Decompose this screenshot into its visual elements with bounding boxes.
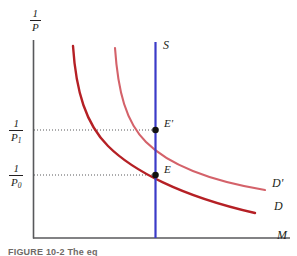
y-axis-label: 1 P (30, 8, 41, 33)
y-tick-p1-subscript: 1 (18, 136, 22, 145)
figure-money-market: 1 P 1 P1 1 P0 M S D D' E E' FIGURE 10-2 … (0, 0, 297, 256)
y-tick-p1-denominator: P1 (9, 132, 23, 143)
y-axis-label-denominator: P (30, 22, 41, 33)
curve-label-supply: S (163, 39, 169, 51)
y-tick-label-p0: 1 P0 (9, 163, 23, 188)
y-axis-label-numerator: 1 (30, 8, 41, 19)
y-tick-p0-numerator: 1 (9, 163, 23, 174)
curve-label-demand-shifted: D' (272, 177, 283, 189)
point-label-equilibrium-initial: E (164, 164, 171, 175)
y-tick-label-p1: 1 P1 (9, 118, 23, 143)
point-equilibrium-initial (152, 172, 159, 179)
point-label-equilibrium-new: E' (164, 118, 173, 129)
chart-canvas (0, 0, 297, 256)
figure-caption: FIGURE 10-2 The eq (8, 247, 98, 256)
y-tick-p0-denominator: P0 (9, 177, 23, 188)
curve-label-demand: D (274, 200, 283, 212)
axes-group (33, 40, 290, 239)
x-axis-label: M (277, 229, 287, 241)
y-tick-p1-numerator: 1 (9, 118, 23, 129)
point-equilibrium-new (152, 127, 159, 134)
y-tick-p0-subscript: 0 (18, 181, 22, 190)
